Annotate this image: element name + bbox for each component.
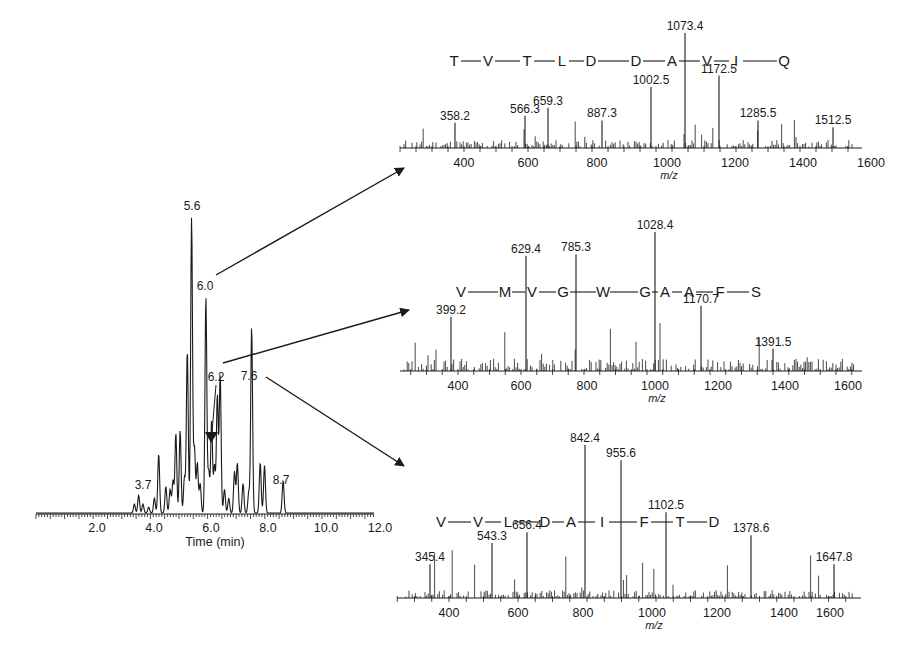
tick-label: 400 — [448, 379, 469, 393]
tick-label: 600 — [518, 156, 539, 170]
residue-S: S — [751, 283, 761, 300]
noise-peaks — [404, 120, 852, 148]
peptide-sequence: TVTLDDAVIQ — [449, 52, 789, 69]
peptide-sequence: VVLDAIFTD — [436, 513, 720, 530]
residue-Q: Q — [778, 52, 790, 69]
chromatogram-trace — [36, 218, 374, 513]
peak-label: 629.4 — [511, 242, 541, 256]
peak-label: 955.6 — [606, 446, 636, 460]
peak-label: 1647.8 — [816, 550, 853, 564]
tick-label: 400 — [454, 156, 475, 170]
residue-V: V — [436, 513, 446, 530]
peak-label: 543.3 — [477, 529, 507, 543]
residue-G: G — [557, 283, 569, 300]
chromatogram-tick-labels: 2.0 4.0 6.0 8.0 10.0 12.0 — [88, 521, 392, 535]
peak-label: 358.2 — [440, 109, 470, 123]
residue-I: I — [600, 513, 604, 530]
tick-label: 10.0 — [314, 521, 338, 535]
spectrum-top-panel: 4006008001000120014001600m/zTVTLDDAVIQ35… — [400, 19, 885, 181]
residue-T: T — [522, 52, 531, 69]
residue-V: V — [456, 283, 466, 300]
peak-label: 1378.6 — [733, 521, 770, 535]
residue-G: G — [639, 283, 651, 300]
peak-label: 1512.5 — [815, 113, 852, 127]
residue-V: V — [527, 283, 537, 300]
peak-label: 1285.5 — [740, 106, 777, 120]
spectrum-x-axis-title: m/z — [660, 169, 678, 181]
tick-label: 600 — [508, 606, 529, 620]
tick-label: 800 — [587, 156, 608, 170]
residue-L: L — [504, 513, 512, 530]
figure-canvas: 2.0 4.0 6.0 8.0 10.0 12.0 Time (min) 3.7… — [0, 0, 911, 662]
tick-label: 1600 — [857, 156, 885, 170]
tick-label: 1600 — [816, 606, 844, 620]
peak-label: 1172.5 — [701, 62, 737, 76]
arrow-to-spectrum-bottom — [266, 377, 404, 466]
residue-T: T — [675, 513, 684, 530]
peak-label: 887.3 — [587, 106, 617, 120]
residue-A: A — [566, 513, 576, 530]
peak-label-6.0: 6.0 — [197, 279, 214, 293]
peak-label: 1028.4 — [637, 218, 674, 232]
residue-T: T — [449, 52, 458, 69]
tick-label: 1200 — [703, 606, 731, 620]
peak-label-5.6: 5.6 — [184, 199, 201, 213]
residue-V: V — [473, 513, 483, 530]
peak-label-6.2: 6.2 — [208, 370, 225, 384]
tick-label: 1000 — [638, 606, 666, 620]
labeled-peaks: 399.2629.4785.31028.41170.71391.5 — [436, 218, 792, 371]
peak-label: 785.3 — [561, 240, 591, 254]
peak-label-7.6: 7.6 — [241, 369, 258, 383]
peak-label: 1102.5 — [648, 498, 684, 512]
spectrum-x-axis-title: m/z — [645, 619, 663, 631]
peak-pointer-line — [212, 385, 216, 432]
tick-label: 2.0 — [88, 521, 105, 535]
tick-label: 12.0 — [368, 521, 392, 535]
tick-label: 1400 — [770, 606, 798, 620]
peak-label: 1170.7 — [683, 292, 719, 306]
lcms-figure: 2.0 4.0 6.0 8.0 10.0 12.0 Time (min) 3.7… — [0, 0, 911, 662]
tick-label: 1400 — [771, 379, 799, 393]
residue-A: A — [667, 52, 677, 69]
residue-V: V — [483, 52, 493, 69]
chromatogram-panel: 2.0 4.0 6.0 8.0 10.0 12.0 Time (min) 3.7… — [36, 199, 392, 549]
tick-label: 1200 — [721, 156, 749, 170]
peak-label: 659.3 — [533, 94, 563, 108]
spectrum-ticks — [411, 369, 852, 375]
residue-M: M — [499, 283, 512, 300]
residue-F: F — [639, 513, 648, 530]
tick-label: 1000 — [641, 379, 669, 393]
residue-L: L — [558, 52, 566, 69]
spectrum-ticks — [400, 146, 848, 152]
peak-label: 842.4 — [570, 431, 600, 445]
peak-label: 656.4 — [512, 518, 542, 532]
residue-D: D — [709, 513, 720, 530]
tick-label: 4.0 — [145, 521, 162, 535]
labeled-peaks: 358.2566.3659.3887.31002.51073.41172.512… — [440, 19, 852, 148]
residue-W: W — [596, 283, 611, 300]
peak-label: 1073.4 — [667, 19, 704, 33]
spectrum-middle-panel: 4006008001000120014001600m/zVMVGWGAAFS39… — [400, 218, 862, 404]
tick-label: 6.0 — [202, 521, 219, 535]
tick-label: 1000 — [653, 156, 681, 170]
tick-label: 800 — [573, 606, 594, 620]
tick-label: 1600 — [834, 379, 862, 393]
peak-label: 1391.5 — [755, 335, 792, 349]
linking-arrows — [216, 168, 409, 466]
peak-label-8.7: 8.7 — [273, 473, 290, 487]
tick-label: 8.0 — [259, 521, 276, 535]
residue-D: D — [631, 52, 642, 69]
noise-peaks — [406, 550, 852, 598]
peak-label: 345.4 — [415, 550, 445, 564]
residue-A: A — [660, 283, 670, 300]
chromatogram-ticks — [36, 514, 373, 519]
chromatogram-x-axis-title: Time (min) — [185, 535, 244, 549]
spectrum-bottom-panel: 4006008001000120014001600m/zVVLDAIFTD345… — [397, 431, 861, 631]
residue-D: D — [586, 52, 597, 69]
tick-label: 800 — [577, 379, 598, 393]
peak-label: 399.2 — [436, 303, 466, 317]
arrow-to-spectrum-top — [216, 168, 404, 275]
tick-label: 600 — [511, 379, 532, 393]
tick-label: 400 — [439, 606, 460, 620]
tick-label: 1200 — [704, 379, 732, 393]
